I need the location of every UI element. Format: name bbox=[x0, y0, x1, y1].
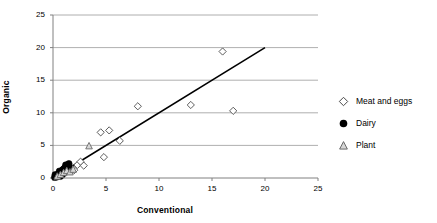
x-tick-label: 5 bbox=[94, 184, 118, 193]
legend-label: Meat and eggs bbox=[356, 97, 412, 106]
data-point bbox=[219, 48, 226, 55]
data-point bbox=[134, 103, 141, 110]
legend-item-plant[interactable]: Plant bbox=[338, 140, 375, 151]
y-tick-label: 10 bbox=[21, 108, 45, 117]
x-axis-title: Conventional bbox=[0, 205, 330, 215]
y-tick-label: 15 bbox=[21, 75, 45, 84]
legend-marker-open-diamond bbox=[338, 96, 349, 107]
data-point bbox=[106, 127, 113, 134]
y-tick-label: 5 bbox=[21, 140, 45, 149]
legend-marker-open-triangle bbox=[338, 140, 349, 151]
y-axis-title: Organic bbox=[1, 65, 11, 129]
x-tick-label: 10 bbox=[147, 184, 171, 193]
y-tick-label: 0 bbox=[21, 173, 45, 182]
legend-item-meat-and-eggs[interactable]: Meat and eggs bbox=[338, 96, 412, 107]
legend-item-dairy[interactable]: Dairy bbox=[338, 118, 376, 129]
legend-label: Plant bbox=[356, 141, 375, 150]
legend-label: Dairy bbox=[356, 119, 376, 128]
x-tick-label: 0 bbox=[41, 184, 65, 193]
legend-marker-filled-circle bbox=[338, 118, 349, 129]
y-tick-label: 25 bbox=[21, 10, 45, 19]
x-tick-label: 15 bbox=[200, 184, 224, 193]
series-plant bbox=[54, 142, 92, 179]
data-point bbox=[187, 101, 194, 108]
x-tick-label: 25 bbox=[306, 184, 330, 193]
scatter-chart: Conventional Organic 0510152025 05101520… bbox=[0, 0, 437, 223]
y-tick-label: 20 bbox=[21, 43, 45, 52]
x-tick-label: 20 bbox=[253, 184, 277, 193]
data-point bbox=[230, 107, 237, 114]
data-point bbox=[100, 154, 107, 161]
data-point bbox=[63, 162, 69, 168]
data-point bbox=[97, 129, 104, 136]
